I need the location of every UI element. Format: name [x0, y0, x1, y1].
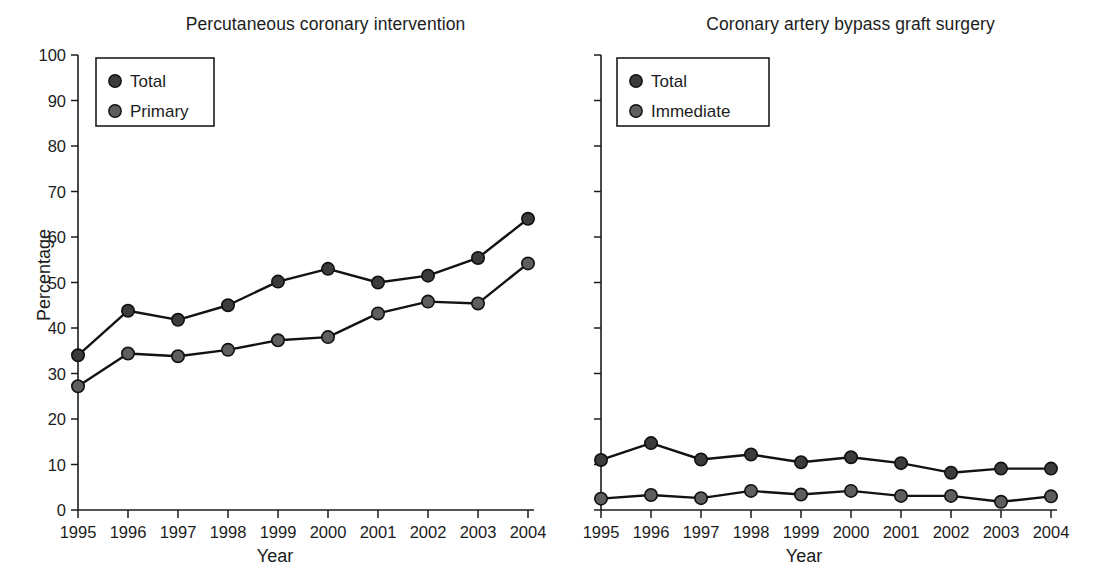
data-point-marker — [72, 380, 84, 392]
data-point-marker — [795, 488, 807, 500]
x-tick-label: 2001 — [360, 523, 397, 541]
data-point-marker — [845, 451, 857, 463]
legend-label-primary: Primary — [130, 102, 189, 121]
plot-area-right: 1995199619971998199920002001200220032004… — [559, 0, 1118, 585]
x-tick-label: 2002 — [933, 523, 970, 541]
y-tick-label: 30 — [48, 365, 66, 383]
data-point-marker — [895, 457, 907, 469]
x-tick-label: 1996 — [110, 523, 147, 541]
data-point-marker — [945, 466, 957, 478]
data-point-marker — [795, 456, 807, 468]
data-point-marker — [645, 437, 657, 449]
x-tick-label: 1995 — [583, 523, 620, 541]
y-tick-label: 10 — [48, 456, 66, 474]
x-tick-label: 1999 — [783, 523, 820, 541]
series-primary — [72, 257, 534, 392]
legend-label-total: Total — [130, 72, 166, 91]
data-point-marker — [472, 297, 484, 309]
panel-coronary-artery-bypass-graft-surgery: Coronary artery bypass graft surgery 199… — [559, 0, 1118, 585]
series-line — [78, 219, 528, 355]
y-tick-label: 100 — [38, 46, 66, 64]
data-point-marker — [422, 269, 434, 281]
legend-label-total: Total — [651, 72, 687, 91]
y-tick-label: 80 — [48, 137, 66, 155]
data-point-marker — [472, 252, 484, 264]
data-point-marker — [595, 492, 607, 504]
data-point-marker — [272, 275, 284, 287]
data-point-marker — [522, 213, 534, 225]
x-tick-label: 2000 — [833, 523, 870, 541]
data-point-marker — [522, 257, 534, 269]
x-tick-label: 1997 — [160, 523, 197, 541]
x-tick-label: 2002 — [410, 523, 447, 541]
x-tick-label: 2004 — [510, 523, 547, 541]
series-total — [595, 437, 1057, 479]
x-tick-label: 2004 — [1033, 523, 1070, 541]
data-point-marker — [322, 263, 334, 275]
legend-marker-immediate — [630, 105, 642, 117]
data-point-marker — [645, 489, 657, 501]
x-tick-label: 1997 — [683, 523, 720, 541]
data-point-marker — [122, 347, 134, 359]
x-tick-label: 2003 — [983, 523, 1020, 541]
data-point-marker — [122, 305, 134, 317]
y-tick-label: 50 — [48, 274, 66, 292]
data-point-marker — [222, 344, 234, 356]
series-line — [601, 491, 1051, 502]
panel-percutaneous-coronary-intervention: Percutaneous coronary intervention Perce… — [0, 0, 559, 585]
data-point-marker — [372, 276, 384, 288]
data-point-marker — [72, 349, 84, 361]
data-point-marker — [895, 490, 907, 502]
data-point-marker — [745, 448, 757, 460]
y-tick-label: 40 — [48, 319, 66, 337]
x-tick-label: 1995 — [60, 523, 97, 541]
legend-marker-total — [630, 75, 642, 87]
y-tick-label: 60 — [48, 228, 66, 246]
data-point-marker — [745, 485, 757, 497]
series-immediate — [595, 485, 1057, 508]
y-tick-label: 90 — [48, 92, 66, 110]
data-point-marker — [1045, 462, 1057, 474]
data-point-marker — [222, 299, 234, 311]
x-axis-label-left: Year — [40, 546, 510, 567]
data-point-marker — [422, 295, 434, 307]
x-axis-label-right: Year — [569, 546, 1039, 567]
legend-marker-primary — [109, 105, 121, 117]
legend-marker-total — [109, 75, 121, 87]
data-point-marker — [322, 331, 334, 343]
data-point-marker — [172, 314, 184, 326]
data-point-marker — [995, 462, 1007, 474]
data-point-marker — [695, 492, 707, 504]
plot-area-left: 0102030405060708090100199519961997199819… — [0, 0, 559, 585]
y-tick-label: 20 — [48, 410, 66, 428]
data-point-marker — [272, 334, 284, 346]
legend-label-immediate: Immediate — [651, 102, 730, 121]
data-point-marker — [995, 496, 1007, 508]
data-point-marker — [945, 490, 957, 502]
x-tick-label: 1999 — [260, 523, 297, 541]
data-point-marker — [595, 454, 607, 466]
x-tick-label: 2000 — [310, 523, 347, 541]
x-tick-label: 2001 — [883, 523, 920, 541]
data-point-marker — [845, 485, 857, 497]
series-line — [601, 443, 1051, 473]
y-tick-label: 70 — [48, 183, 66, 201]
data-point-marker — [1045, 490, 1057, 502]
series-line — [78, 263, 528, 386]
data-point-marker — [172, 350, 184, 362]
x-tick-label: 1998 — [733, 523, 770, 541]
data-point-marker — [372, 307, 384, 319]
x-tick-label: 1998 — [210, 523, 247, 541]
x-tick-label: 1996 — [633, 523, 670, 541]
y-tick-label: 0 — [57, 501, 66, 519]
data-point-marker — [695, 453, 707, 465]
x-tick-label: 2003 — [460, 523, 497, 541]
figure-container: Percutaneous coronary intervention Perce… — [0, 0, 1118, 585]
